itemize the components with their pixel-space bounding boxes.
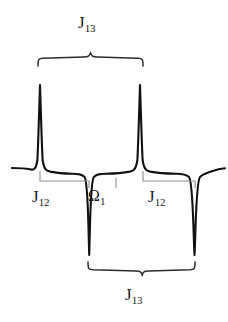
label-j13-bottom-base: J (125, 285, 132, 304)
label-j12-right-sub: 12 (155, 196, 166, 208)
spectrum-plot (0, 0, 228, 322)
label-j13-top-base: J (78, 13, 85, 32)
label-j13-top-sub: 13 (85, 22, 96, 34)
label-j12-right-base: J (148, 187, 155, 206)
label-j13-bottom-sub: 13 (132, 294, 143, 306)
label-j12-right: J12 (148, 188, 165, 208)
brace-j13-bottom (88, 262, 195, 275)
label-j12-left-base: J (32, 187, 39, 206)
label-j13-bottom: J13 (125, 286, 142, 306)
spectrum-figure: J13 J12 Ω1 J12 J13 (0, 0, 228, 322)
brace-j13-top-path (38, 53, 143, 66)
label-omega1-base: Ω (88, 187, 100, 204)
brace-j13-top (38, 53, 143, 66)
label-omega1-sub: 1 (100, 195, 105, 207)
brace-j13-bottom-path (88, 262, 195, 275)
label-j12-left-sub: 12 (39, 196, 50, 208)
label-j12-left: J12 (32, 188, 49, 208)
spectrum-trace-group (12, 85, 225, 255)
label-omega1: Ω1 (88, 188, 105, 207)
label-j13-top: J13 (78, 14, 95, 34)
spectrum-trace (12, 85, 225, 255)
